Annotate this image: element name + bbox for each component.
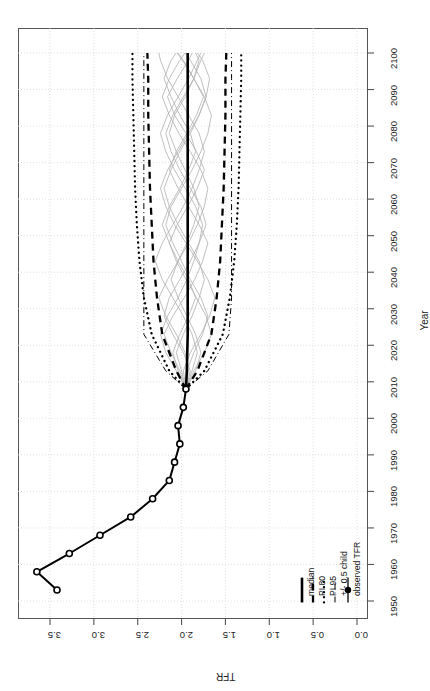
x-tick-label: 1990 [388,450,399,471]
x-tick-label: 2060 [388,194,399,215]
x-tick-label: 2010 [388,377,399,398]
observed-series [34,386,189,593]
x-tick-label: 2080 [388,121,399,142]
y-axis-title: TFR [216,671,235,682]
x-tick-label: 2090 [388,84,399,105]
y-tick-label: 1.5 [223,630,236,641]
x-tick-label: 2020 [388,340,399,361]
x-tick-label: 1970 [388,523,399,544]
legend-item-label: PI 95 [328,576,338,596]
x-tick-label: 1980 [388,486,399,507]
legend-item-label: median [306,568,316,596]
median-line [186,53,188,389]
y-tick-label: 3.0 [92,630,105,641]
legend-item-label: observed TFR [352,542,362,596]
x-tick-label: 2050 [388,231,399,252]
sample-trajectories [155,53,215,389]
y-tick-label: 2.0 [179,630,192,641]
x-tick-label: 1960 [388,559,399,580]
y-tick-label: 0.0 [355,630,368,641]
y-tick-label: 1.0 [267,630,280,641]
y-tick-label: 0.5 [311,630,324,641]
gridlines [18,28,368,619]
y-tick-label: 3.5 [48,630,61,641]
legend-item-label: PI 80 [317,576,327,596]
x-tick-label: 2030 [388,304,399,325]
x-tick-label: 1950 [388,596,399,617]
y-tick-label: 2.5 [135,630,148,641]
x-axis-title: Year [419,311,430,331]
legend-item-label: +/- 0.5 child [339,552,349,597]
x-tick-label: 2000 [388,413,399,434]
x-tick-label: 2100 [388,48,399,69]
x-tick-label: 2070 [388,157,399,178]
x-tick-label: 2040 [388,267,399,288]
axis-ticks [50,53,374,625]
